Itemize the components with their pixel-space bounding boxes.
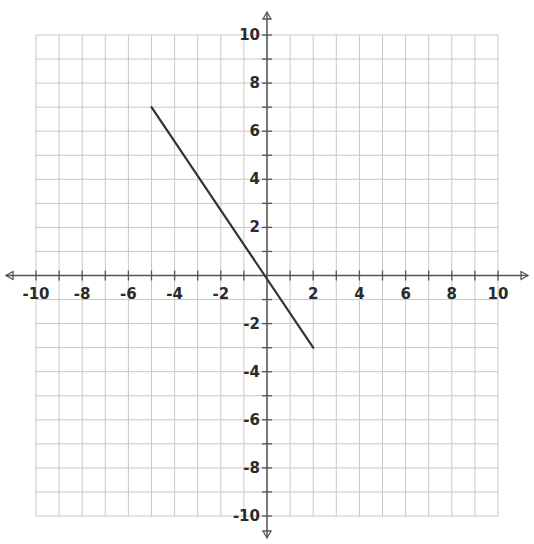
coordinate-plane: -10-8-6-4-2246810 108642-2-4-6-8-10	[0, 0, 534, 544]
y-tick-label: 4	[250, 170, 260, 188]
x-tick-label: -8	[74, 285, 91, 303]
x-tick-label: 6	[400, 285, 410, 303]
y-tick-label: 10	[239, 26, 260, 44]
x-tick-label: 10	[488, 285, 509, 303]
x-tick-label: -6	[120, 285, 137, 303]
x-tick-label: -4	[166, 285, 183, 303]
y-tick-label: -2	[243, 315, 260, 333]
y-tick-label: 2	[250, 218, 260, 236]
x-tick-label: -10	[22, 285, 49, 303]
y-tick-label: -4	[243, 363, 260, 381]
y-tick-label: -6	[243, 411, 260, 429]
y-tick-label: 8	[250, 74, 260, 92]
x-tick-label: -2	[212, 285, 229, 303]
x-tick-label: 2	[308, 285, 318, 303]
y-tick-label: 6	[250, 122, 260, 140]
x-tick-label: 4	[354, 285, 364, 303]
y-tick-label: -10	[233, 507, 260, 525]
y-tick-label: -8	[243, 459, 260, 477]
axes	[6, 12, 528, 538]
x-tick-label: 8	[447, 285, 457, 303]
